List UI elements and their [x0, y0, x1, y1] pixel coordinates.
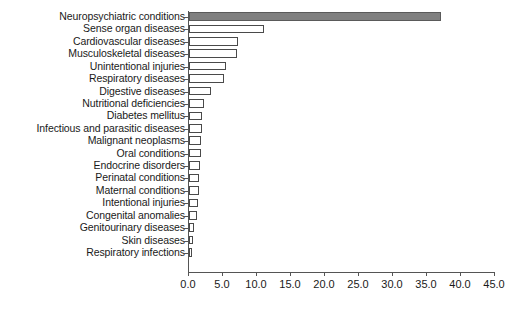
y-axis-tick — [184, 29, 188, 30]
bar-row: Genitourinary diseases — [0, 222, 505, 234]
category-label: Musculoskeletal diseases — [68, 47, 185, 59]
y-axis-tick — [184, 241, 188, 242]
category-label: Diabetes mellitus — [107, 109, 185, 121]
bar-row: Nutritional deficiencies — [0, 98, 505, 110]
y-axis-tick — [184, 17, 188, 18]
bar-row: Infectious and parasitic diseases — [0, 123, 505, 135]
y-axis-tick — [184, 154, 188, 155]
bar — [189, 149, 201, 158]
x-axis-tick-label: 20.0 — [313, 278, 334, 291]
bar — [189, 62, 226, 71]
x-axis-tick-mark — [358, 272, 359, 276]
x-axis-tick-label: 0.0 — [180, 278, 195, 291]
bar — [189, 174, 199, 183]
category-label: Intentional injuries — [102, 196, 185, 208]
x-axis-tick-mark — [460, 272, 461, 276]
category-label: Sense organ diseases — [83, 22, 185, 34]
x-axis-tick-mark — [494, 272, 495, 276]
category-label: Respiratory diseases — [89, 72, 185, 84]
category-label: Unintentional injuries — [90, 60, 185, 72]
bar-row: Perinatal conditions — [0, 172, 505, 184]
category-label: Cardiovascular diseases — [73, 35, 185, 47]
bar-row: Skin diseases — [0, 235, 505, 247]
category-label: Perinatal conditions — [95, 171, 185, 183]
y-axis-tick — [184, 141, 188, 142]
y-axis-tick — [184, 129, 188, 130]
bar-row: Oral conditions — [0, 148, 505, 160]
x-axis-tick-mark — [188, 272, 189, 276]
category-label: Infectious and parasitic diseases — [37, 122, 185, 134]
bar — [189, 112, 202, 121]
x-axis-tick-mark — [290, 272, 291, 276]
x-axis-tick-mark — [324, 272, 325, 276]
bar — [189, 12, 441, 21]
category-label: Malignant neoplasms — [88, 134, 185, 146]
bar-row: Digestive diseases — [0, 86, 505, 98]
bar — [189, 136, 201, 145]
bar-row: Intentional injuries — [0, 197, 505, 209]
category-label: Neuropsychiatric conditions — [59, 10, 185, 22]
y-axis-tick — [184, 79, 188, 80]
y-axis-tick — [184, 203, 188, 204]
y-axis-tick — [184, 178, 188, 179]
bar-rows: Neuropsychiatric conditionsSense organ d… — [0, 11, 505, 272]
x-axis-tick-label: 25.0 — [347, 278, 368, 291]
bar-row: Respiratory diseases — [0, 73, 505, 85]
bar-row: Congenital anomalies — [0, 210, 505, 222]
x-axis-tick-label: 10.0 — [245, 278, 266, 291]
x-axis-tick-label: 5.0 — [214, 278, 229, 291]
category-label: Congenital anomalies — [86, 209, 185, 221]
category-label: Skin diseases — [122, 234, 185, 246]
y-axis-tick — [184, 166, 188, 167]
x-axis-ticks: 0.05.010.015.020.025.030.035.040.045.0 — [0, 272, 505, 302]
category-label: Maternal conditions — [96, 184, 185, 196]
category-label: Digestive diseases — [99, 85, 185, 97]
bar-row: Neuropsychiatric conditions — [0, 11, 505, 23]
x-axis-tick-label: 35.0 — [415, 278, 436, 291]
y-axis-tick — [184, 104, 188, 105]
x-axis-tick-mark — [256, 272, 257, 276]
bar-row: Maternal conditions — [0, 185, 505, 197]
y-axis-tick — [184, 42, 188, 43]
y-axis-tick — [184, 228, 188, 229]
x-axis-tick-label: 30.0 — [381, 278, 402, 291]
bar — [189, 223, 194, 232]
x-axis-tick-label: 45.0 — [483, 278, 504, 291]
bar — [189, 161, 200, 170]
bar — [189, 124, 202, 133]
y-axis-tick — [184, 253, 188, 254]
horizontal-bar-chart: Neuropsychiatric conditionsSense organ d… — [0, 0, 505, 309]
x-axis-tick-mark — [426, 272, 427, 276]
category-label: Oral conditions — [116, 147, 185, 159]
bar-row: Musculoskeletal diseases — [0, 48, 505, 60]
y-axis-tick — [184, 54, 188, 55]
y-axis-tick — [184, 191, 188, 192]
bar — [189, 49, 237, 58]
bar — [189, 74, 224, 83]
x-axis-tick-mark — [222, 272, 223, 276]
bar-row: Malignant neoplasms — [0, 135, 505, 147]
bar — [189, 199, 198, 208]
y-axis-tick — [184, 67, 188, 68]
bar-row: Unintentional injuries — [0, 61, 505, 73]
bar — [189, 25, 264, 34]
bar — [189, 99, 204, 108]
x-axis-tick-label: 15.0 — [279, 278, 300, 291]
x-axis-tick-label: 40.0 — [449, 278, 470, 291]
x-axis-tick-mark — [392, 272, 393, 276]
category-label: Endocrine disorders — [94, 159, 185, 171]
y-axis-tick — [184, 116, 188, 117]
bar — [189, 248, 192, 257]
category-label: Genitourinary diseases — [80, 221, 185, 233]
bar-row: Respiratory infections — [0, 247, 505, 259]
category-label: Nutritional deficiencies — [82, 97, 185, 109]
bar — [189, 186, 199, 195]
bar — [189, 236, 193, 245]
category-label: Respiratory infections — [86, 246, 185, 258]
y-axis-tick — [184, 216, 188, 217]
bar — [189, 211, 197, 220]
y-axis-tick — [184, 92, 188, 93]
bar-row: Endocrine disorders — [0, 160, 505, 172]
bar — [189, 87, 211, 96]
bar — [189, 37, 238, 46]
